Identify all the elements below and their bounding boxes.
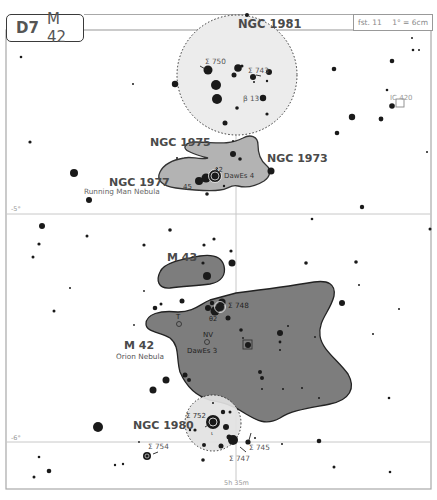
dec-label-5: -5° [11, 205, 21, 213]
label-theta2: θ2 [209, 315, 217, 323]
ngc1981-cluster-boundary[interactable] [177, 15, 297, 135]
label-nv: NV [203, 331, 213, 339]
label-s754: Σ 754 [148, 442, 169, 451]
label-ngc1981[interactable]: NGC 1981 [238, 17, 302, 31]
ra-label: 5h 35m [224, 479, 249, 487]
label-45: 45 [183, 183, 192, 191]
chart-info-box: fst. 11 1° = 6cm [353, 14, 433, 31]
label-ngc1975[interactable]: NGC 1975 [150, 136, 211, 149]
label-t: T [175, 313, 181, 321]
star-chart: NGC 1981 NGC 1975 NGC 1973 NGC 1977 Runn… [0, 0, 437, 500]
label-42: 42 [214, 166, 223, 174]
label-s747: Σ 747 [229, 454, 250, 463]
label-dawes3: DawEs 3 [187, 347, 217, 355]
scale-label: 1° = 6cm [392, 18, 428, 27]
label-s748: Σ 748 [228, 301, 249, 310]
label-iota: ι [211, 430, 213, 436]
label-dawes4: DawEs 4 [224, 172, 255, 180]
label-s745: Σ 745 [249, 443, 270, 452]
label-s752: Σ 752 [186, 412, 206, 420]
label-s750: Σ 750 [205, 57, 226, 66]
label-m42[interactable]: M 42 [124, 339, 154, 352]
label-ic420[interactable]: IC 420 [390, 94, 413, 102]
label-ngc1980[interactable]: NGC 1980 [133, 419, 194, 432]
field-label: fst. 11 [358, 18, 382, 27]
chart-object: M 42 [47, 10, 83, 46]
label-m43[interactable]: M 43 [167, 251, 197, 264]
label-b13: β 13 [243, 94, 260, 103]
chart-code: D7 [16, 19, 39, 37]
dec-label-6: -6° [11, 434, 21, 442]
label-running-man-nebula: Running Man Nebula [84, 187, 160, 196]
label-orion-nebula: Orion Nebula [116, 352, 164, 361]
chart-title-box: D7 M 42 [6, 14, 84, 42]
label-ngc1973[interactable]: NGC 1973 [267, 152, 328, 165]
label-s743: Σ 743 [248, 66, 269, 75]
